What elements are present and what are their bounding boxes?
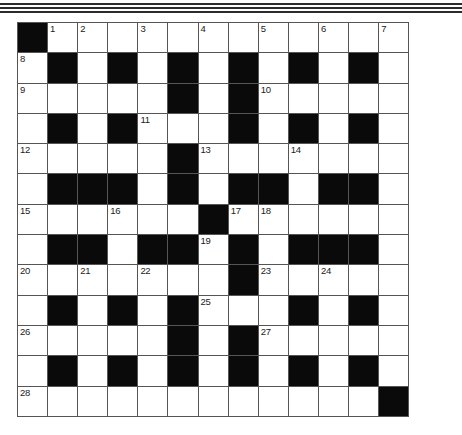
answer-cell[interactable]: 10: [259, 84, 289, 114]
answer-cell[interactable]: [289, 84, 319, 114]
answer-cell[interactable]: [199, 114, 229, 144]
answer-cell[interactable]: [379, 144, 409, 174]
answer-cell[interactable]: [289, 387, 319, 417]
answer-cell[interactable]: [349, 205, 379, 235]
answer-cell[interactable]: [18, 296, 48, 326]
answer-cell[interactable]: [379, 265, 409, 295]
answer-cell[interactable]: 26: [18, 326, 48, 356]
answer-cell[interactable]: [319, 205, 349, 235]
answer-cell[interactable]: [229, 144, 259, 174]
answer-cell[interactable]: [138, 174, 168, 204]
answer-cell[interactable]: [138, 84, 168, 114]
answer-cell[interactable]: [379, 326, 409, 356]
answer-cell[interactable]: [289, 265, 319, 295]
answer-cell[interactable]: [78, 296, 108, 326]
answer-cell[interactable]: [229, 387, 259, 417]
answer-cell[interactable]: [289, 326, 319, 356]
answer-cell[interactable]: [138, 296, 168, 326]
answer-cell[interactable]: [108, 326, 138, 356]
answer-cell[interactable]: [199, 53, 229, 83]
answer-cell[interactable]: [48, 144, 78, 174]
answer-cell[interactable]: [259, 53, 289, 83]
answer-cell[interactable]: [168, 114, 198, 144]
answer-cell[interactable]: 3: [138, 23, 168, 53]
answer-cell[interactable]: [138, 356, 168, 386]
answer-cell[interactable]: [319, 114, 349, 144]
answer-cell[interactable]: [138, 326, 168, 356]
answer-cell[interactable]: [168, 205, 198, 235]
answer-cell[interactable]: [349, 23, 379, 53]
answer-cell[interactable]: [229, 296, 259, 326]
answer-cell[interactable]: 23: [259, 265, 289, 295]
answer-cell[interactable]: [319, 53, 349, 83]
answer-cell[interactable]: [78, 387, 108, 417]
answer-cell[interactable]: 1: [48, 23, 78, 53]
answer-cell[interactable]: [78, 144, 108, 174]
answer-cell[interactable]: [379, 53, 409, 83]
answer-cell[interactable]: [319, 84, 349, 114]
answer-cell[interactable]: [18, 356, 48, 386]
answer-cell[interactable]: [168, 265, 198, 295]
answer-cell[interactable]: [349, 387, 379, 417]
answer-cell[interactable]: [289, 205, 319, 235]
answer-cell[interactable]: [18, 114, 48, 144]
answer-cell[interactable]: 24: [319, 265, 349, 295]
answer-cell[interactable]: 9: [18, 84, 48, 114]
answer-cell[interactable]: 21: [78, 265, 108, 295]
answer-cell[interactable]: [319, 144, 349, 174]
answer-cell[interactable]: 27: [259, 326, 289, 356]
answer-cell[interactable]: [349, 326, 379, 356]
answer-cell[interactable]: 15: [18, 205, 48, 235]
answer-cell[interactable]: [199, 356, 229, 386]
answer-cell[interactable]: [108, 235, 138, 265]
answer-cell[interactable]: [319, 387, 349, 417]
answer-cell[interactable]: [259, 296, 289, 326]
answer-cell[interactable]: [289, 23, 319, 53]
answer-cell[interactable]: 14: [289, 144, 319, 174]
answer-cell[interactable]: 22: [138, 265, 168, 295]
answer-cell[interactable]: 17: [229, 205, 259, 235]
answer-cell[interactable]: [379, 296, 409, 326]
answer-cell[interactable]: [108, 84, 138, 114]
answer-cell[interactable]: [108, 387, 138, 417]
answer-cell[interactable]: [138, 53, 168, 83]
answer-cell[interactable]: [168, 23, 198, 53]
answer-cell[interactable]: [18, 174, 48, 204]
answer-cell[interactable]: 5: [259, 23, 289, 53]
answer-cell[interactable]: 25: [199, 296, 229, 326]
answer-cell[interactable]: [259, 356, 289, 386]
answer-cell[interactable]: [379, 174, 409, 204]
answer-cell[interactable]: 16: [108, 205, 138, 235]
answer-cell[interactable]: 18: [259, 205, 289, 235]
answer-cell[interactable]: [379, 84, 409, 114]
answer-cell[interactable]: [78, 326, 108, 356]
answer-cell[interactable]: [48, 205, 78, 235]
answer-cell[interactable]: [78, 356, 108, 386]
answer-cell[interactable]: [108, 144, 138, 174]
answer-cell[interactable]: 12: [18, 144, 48, 174]
answer-cell[interactable]: [259, 144, 289, 174]
answer-cell[interactable]: [78, 53, 108, 83]
answer-cell[interactable]: [319, 326, 349, 356]
answer-cell[interactable]: [199, 326, 229, 356]
answer-cell[interactable]: [48, 265, 78, 295]
answer-cell[interactable]: [349, 84, 379, 114]
answer-cell[interactable]: [48, 387, 78, 417]
answer-cell[interactable]: [229, 23, 259, 53]
answer-cell[interactable]: [48, 84, 78, 114]
answer-cell[interactable]: [319, 356, 349, 386]
answer-cell[interactable]: [319, 296, 349, 326]
answer-cell[interactable]: 19: [199, 235, 229, 265]
answer-cell[interactable]: [78, 84, 108, 114]
answer-cell[interactable]: [138, 205, 168, 235]
answer-cell[interactable]: 7: [379, 23, 409, 53]
answer-cell[interactable]: [18, 235, 48, 265]
answer-cell[interactable]: [168, 387, 198, 417]
answer-cell[interactable]: [78, 205, 108, 235]
answer-cell[interactable]: [259, 114, 289, 144]
answer-cell[interactable]: [259, 387, 289, 417]
answer-cell[interactable]: [78, 114, 108, 144]
answer-cell[interactable]: 20: [18, 265, 48, 295]
answer-cell[interactable]: [199, 265, 229, 295]
answer-cell[interactable]: [259, 235, 289, 265]
